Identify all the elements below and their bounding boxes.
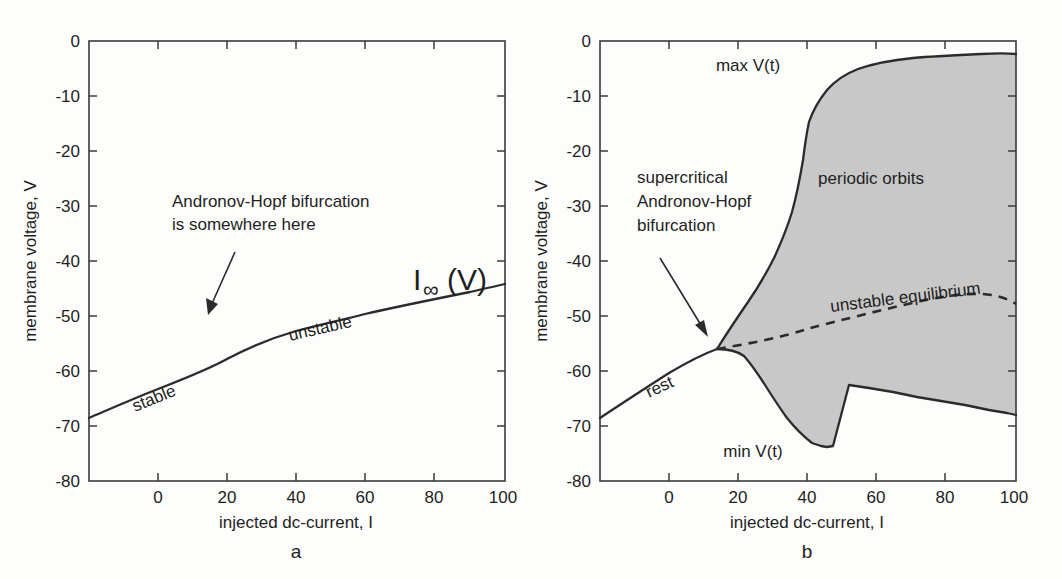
figure-container: 0 -10 -20 -30 -40 -50 -60 -70 -80 0 20 4…: [0, 0, 1062, 579]
x-axis-title: injected dc-current, I: [730, 513, 884, 532]
x-tick-labels-a: 0 20 40 60 80 100: [153, 488, 517, 507]
y-tick-label: -30: [566, 197, 591, 216]
x-ticks-a: [158, 41, 434, 481]
y-tick-label: -50: [55, 307, 80, 326]
x-tick-label: 0: [153, 488, 162, 507]
rest-label: rest: [643, 372, 677, 401]
note-line-2: Andronov-Hopf: [637, 192, 752, 211]
x-tick-label: 100: [1000, 488, 1028, 507]
periodic-orbits-label: periodic orbits: [818, 169, 924, 188]
y-tick-label: -30: [55, 197, 80, 216]
y-axis-title: membrane voltage, V: [21, 180, 40, 342]
panel-letter-a: a: [291, 541, 302, 562]
y-tick-label: -40: [55, 252, 80, 271]
panel-a: 0 -10 -20 -30 -40 -50 -60 -70 -80 0 20 4…: [0, 0, 531, 579]
panel-letter-b: b: [802, 541, 813, 562]
x-tick-label: 0: [664, 488, 673, 507]
y-tick-label: -20: [566, 142, 591, 161]
y-axis-title: membrane voltage, V: [532, 180, 551, 342]
x-tick-label: 40: [287, 488, 306, 507]
y-tick-label: -80: [566, 472, 591, 491]
i-infinity-subscript: ∞: [423, 277, 439, 302]
i-infinity-tail: (V): [447, 263, 487, 296]
note-line-2: is somewhere here: [172, 215, 316, 234]
y-tick-label: -70: [55, 417, 80, 436]
x-tick-label: 80: [936, 488, 955, 507]
y-tick-labels-a: 0 -10 -20 -30 -40 -50 -60 -70 -80: [55, 32, 80, 491]
y-tick-label: 0: [71, 32, 80, 51]
plot-frame-a: [89, 41, 505, 481]
y-tick-label: -60: [566, 362, 591, 381]
pointer-arrow-a: [206, 252, 235, 315]
x-tick-label: 60: [356, 488, 375, 507]
x-tick-label: 80: [425, 488, 444, 507]
x-tick-label: 20: [218, 488, 237, 507]
panel-a-plot: 0 -10 -20 -30 -40 -50 -60 -70 -80 0 20 4…: [0, 0, 531, 579]
y-tick-label: -70: [566, 417, 591, 436]
x-tick-label: 20: [729, 488, 748, 507]
stable-label: stable: [129, 381, 178, 416]
pointer-arrow-b: [660, 258, 708, 337]
y-tick-label: -20: [55, 142, 80, 161]
y-ticks-a: [89, 96, 505, 426]
min-v-label: min V(t): [723, 442, 783, 461]
x-tick-labels-b: 0 20 40 60 80 100: [664, 488, 1028, 507]
note-line-3: bifurcation: [637, 216, 715, 235]
y-tick-labels-b: 0 -10 -20 -30 -40 -50 -60 -70 -80: [566, 32, 591, 491]
x-axis-title: injected dc-current, I: [219, 513, 373, 532]
i-infinity-base: I: [413, 263, 421, 296]
panel-b-plot: 0 -10 -20 -30 -40 -50 -60 -70 -80 0 20 4…: [531, 0, 1062, 579]
note-line-1: Andronov-Hopf bifurcation: [172, 192, 370, 211]
y-tick-label: -10: [566, 87, 591, 106]
unstable-label: unstable: [287, 312, 354, 345]
max-v-label: max V(t): [716, 56, 780, 75]
y-tick-label: -80: [55, 472, 80, 491]
note-line-1: supercritical: [637, 168, 728, 187]
y-tick-label: -60: [55, 362, 80, 381]
x-tick-label: 100: [489, 488, 517, 507]
panel-b: 0 -10 -20 -30 -40 -50 -60 -70 -80 0 20 4…: [531, 0, 1062, 579]
x-tick-label: 40: [798, 488, 817, 507]
y-tick-label: -50: [566, 307, 591, 326]
y-tick-label: 0: [582, 32, 591, 51]
y-tick-label: -10: [55, 87, 80, 106]
y-tick-label: -40: [566, 252, 591, 271]
x-tick-label: 60: [867, 488, 886, 507]
